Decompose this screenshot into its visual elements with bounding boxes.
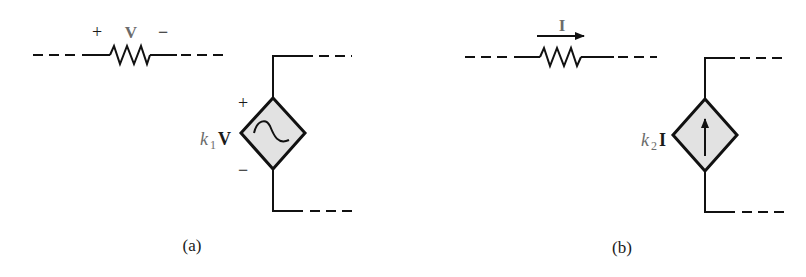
panel-b: I k 2 I (b) [465, 16, 785, 257]
caption-a: (a) [183, 236, 202, 255]
wire [273, 56, 303, 98]
controlling-variable: I [659, 130, 666, 150]
minus-sign: − [238, 160, 248, 180]
dependent-voltage-source: + − k 1 V [200, 56, 352, 211]
wire [705, 171, 735, 212]
source-label-k1v: k 1 V [200, 129, 231, 152]
resistor-branch-a: + V − [33, 22, 225, 64]
controlling-variable: V [218, 129, 231, 149]
caption-b: (b) [612, 238, 632, 257]
voltage-label-v: V [125, 23, 138, 42]
dependent-current-source: k 2 I [641, 58, 785, 212]
plus-sign: + [92, 22, 102, 42]
dependent-sources-figure: + V − + − k 1 V (a) [0, 0, 806, 277]
subscript: 2 [651, 139, 657, 153]
coefficient-k: k [641, 130, 650, 150]
wire [273, 169, 303, 211]
source-label-k2i: k 2 I [641, 130, 666, 153]
subscript: 1 [210, 138, 216, 152]
resistor-icon [110, 46, 150, 64]
current-label-i: I [559, 16, 566, 35]
wire [705, 58, 735, 99]
panel-a: + V − + − k 1 V (a) [33, 22, 352, 255]
plus-sign: + [238, 93, 248, 113]
coefficient-k: k [200, 129, 209, 149]
resistor-icon [540, 48, 581, 66]
minus-sign: − [158, 22, 168, 42]
resistor-branch-b: I [465, 16, 657, 66]
